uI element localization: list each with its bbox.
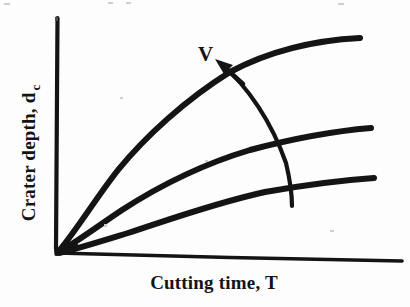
scan-speck <box>4 3 10 5</box>
scan-speck <box>205 160 208 162</box>
constant-speed-arc <box>220 63 292 206</box>
crater-depth-figure: Crater depth, dc Cutting time, T V <box>0 0 410 307</box>
scan-speck <box>108 2 113 4</box>
scan-speck <box>55 17 58 21</box>
y-axis-label-text: Crater depth, d <box>18 92 39 221</box>
x-axis-label: Cutting time, T <box>0 272 410 294</box>
scan-speck <box>126 2 131 4</box>
scan-speck <box>338 3 344 5</box>
x-axis-line <box>57 253 402 261</box>
scan-speck <box>120 97 123 99</box>
scan-speck <box>330 230 334 232</box>
v-annotation-label: V <box>198 42 213 67</box>
y-axis-label-subscript: c <box>28 85 43 93</box>
y-axis-label: Crater depth, dc <box>18 53 44 253</box>
y-axis-line <box>56 18 58 254</box>
scan-speck <box>104 224 107 227</box>
